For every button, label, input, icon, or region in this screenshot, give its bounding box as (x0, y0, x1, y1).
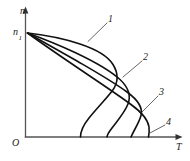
y-axis-marker-subscript: 1 (19, 34, 23, 42)
curve-label-4: 4 (166, 117, 171, 127)
x-axis-label: T (176, 142, 182, 152)
speed-torque-chart: n n1 T O 1 2 3 4 (0, 0, 190, 161)
y-axis-marker-base: n (13, 26, 18, 37)
leader-line-1 (88, 23, 107, 42)
leader-line-4 (150, 125, 165, 133)
curve-label-1: 1 (108, 14, 113, 24)
y-axis-label: n (20, 6, 25, 16)
curve-label-3: 3 (159, 87, 164, 97)
leader-line-3 (142, 96, 158, 112)
chart-canvas (0, 0, 190, 161)
origin-label: O (12, 138, 19, 148)
leader-line-2 (123, 61, 142, 77)
curve-4 (28, 33, 150, 137)
curve-2 (28, 33, 130, 137)
y-axis-marker-n1: n1 (13, 27, 22, 40)
curve-label-2: 2 (143, 52, 148, 62)
x-axis-arrow-icon (176, 134, 183, 140)
